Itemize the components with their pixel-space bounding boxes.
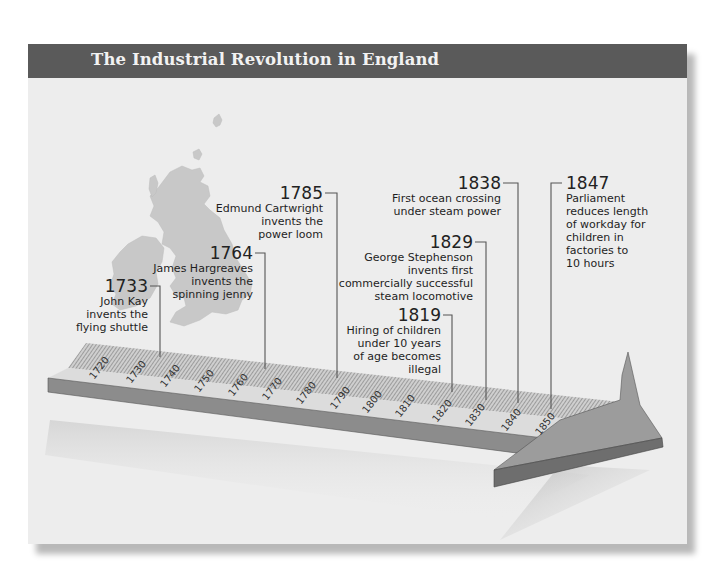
event-1819: 1819 Hiring of children under 10 years o…	[345, 306, 441, 376]
event-desc-line: Hiring of children	[345, 324, 441, 337]
event-1847: 1847 Parliament reduces length of workda…	[566, 174, 676, 270]
event-desc-line: Parliament	[566, 192, 676, 205]
event-year: 1785	[215, 184, 323, 202]
event-desc-line: George Stephenson	[335, 251, 473, 264]
event-1733: 1733 John Kay invents the flying shuttle	[60, 277, 148, 334]
event-1785: 1785 Edmund Cartwright invents the power…	[215, 184, 323, 241]
event-1838: 1838 First ocean crossing under steam po…	[380, 174, 501, 218]
event-desc-line: invents the	[215, 215, 323, 228]
event-desc-line: commercially successful	[335, 277, 473, 290]
event-desc-line: children in	[566, 231, 676, 244]
leader-1838	[503, 183, 518, 403]
event-desc-line: John Kay	[60, 295, 148, 308]
event-1829: 1829 George Stephenson invents first com…	[335, 233, 473, 303]
event-desc-line: under 10 years	[345, 337, 441, 350]
event-desc-line: invents first	[335, 264, 473, 277]
event-desc-line: invents the	[150, 275, 253, 288]
leader-1847	[551, 183, 562, 409]
event-year: 1819	[345, 306, 441, 324]
event-1764: 1764 James Hargreaves invents the spinni…	[150, 244, 253, 301]
event-desc-line: spinning jenny	[150, 288, 253, 301]
leader-1819	[443, 315, 452, 392]
event-desc-line: flying shuttle	[60, 321, 148, 334]
event-desc-line: of age becomes	[345, 350, 441, 363]
event-year: 1847	[566, 174, 676, 192]
event-desc-line: illegal	[345, 363, 441, 376]
event-desc-line: 10 hours	[566, 257, 676, 270]
event-desc-line: First ocean crossing	[380, 192, 501, 205]
event-desc-line: factories to	[566, 244, 676, 257]
event-desc-line: reduces length	[566, 205, 676, 218]
event-desc-line: under steam power	[380, 205, 501, 218]
leader-1764	[255, 253, 265, 369]
event-year: 1733	[60, 277, 148, 295]
event-desc-line: steam locomotive	[335, 290, 473, 303]
event-desc-line: Edmund Cartwright	[215, 202, 323, 215]
event-year: 1764	[150, 244, 253, 262]
event-desc-line: invents the	[60, 308, 148, 321]
event-desc-line: James Hargreaves	[150, 262, 253, 275]
event-year: 1838	[380, 174, 501, 192]
leader-1829	[475, 242, 486, 400]
event-desc-line: power loom	[215, 228, 323, 241]
event-year: 1829	[335, 233, 473, 251]
event-desc-line: of workday for	[566, 218, 676, 231]
